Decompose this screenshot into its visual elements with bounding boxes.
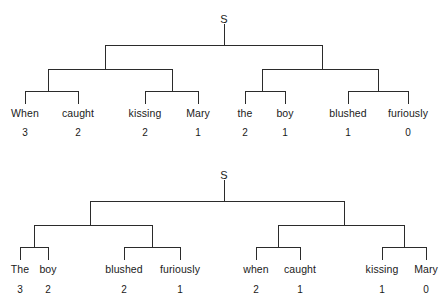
tree-top-leaf-word-3: Mary xyxy=(186,108,210,119)
tree-bottom-leaf-word-3: furiously xyxy=(160,264,200,275)
tree-bottom-leaf-number-0: 3 xyxy=(17,285,23,295)
tree-top-leaf-number-2: 2 xyxy=(142,128,148,138)
tree-top-root-label: S xyxy=(220,14,228,25)
tree-top-leaf-word-5: boy xyxy=(276,108,293,119)
tree-bottom-leaf-word-5: caught xyxy=(284,264,316,275)
tree-top-leaf-word-0: When xyxy=(11,108,39,119)
tree-bottom-leaf-word-6: kissing xyxy=(366,264,399,275)
tree-top-leaf-number-5: 1 xyxy=(282,128,288,138)
tree-top-leaf-number-0: 3 xyxy=(22,128,28,138)
tree-bottom-leaf-word-4: when xyxy=(243,264,269,275)
tree-bottom-leaf-number-2: 2 xyxy=(121,285,127,295)
tree-bottom-leaf-number-5: 1 xyxy=(297,285,303,295)
tree-top-leaf-word-4: the xyxy=(238,108,253,119)
tree-bottom-leaf-word-1: boy xyxy=(39,264,56,275)
tree-bottom-leaf-number-6: 1 xyxy=(379,285,385,295)
tree-bottom-leaf-word-2: blushed xyxy=(105,264,142,275)
tree-top-leaf-number-3: 1 xyxy=(195,128,201,138)
tree-bottom-leaf-word-7: Mary xyxy=(414,264,438,275)
tree-top-leaf-word-6: blushed xyxy=(329,108,366,119)
tree-bottom-leaf-number-7: 0 xyxy=(423,285,429,295)
tree-top-leaf-number-1: 2 xyxy=(75,128,81,138)
tree-top-leaf-number-7: 0 xyxy=(405,128,411,138)
tree-top-leaf-word-2: kissing xyxy=(129,108,162,119)
tree-bottom-leaf-number-1: 2 xyxy=(45,285,51,295)
tree-top-leaf-number-4: 2 xyxy=(242,128,248,138)
tree-bottom-leaf-number-3: 1 xyxy=(177,285,183,295)
tree-bottom-leaf-word-0: The xyxy=(11,264,29,275)
tree-bottom-root-label: S xyxy=(220,170,228,181)
tree-branch-lines xyxy=(0,0,447,303)
tree-top-leaf-word-7: furiously xyxy=(388,108,428,119)
tree-top-leaf-number-6: 1 xyxy=(345,128,351,138)
tree-bottom-leaf-number-4: 2 xyxy=(253,285,259,295)
tree-top-leaf-word-1: caught xyxy=(62,108,94,119)
syntax-tree-figure: SWhen3caught2kissing2Mary1the2boy1blushe… xyxy=(0,0,447,303)
